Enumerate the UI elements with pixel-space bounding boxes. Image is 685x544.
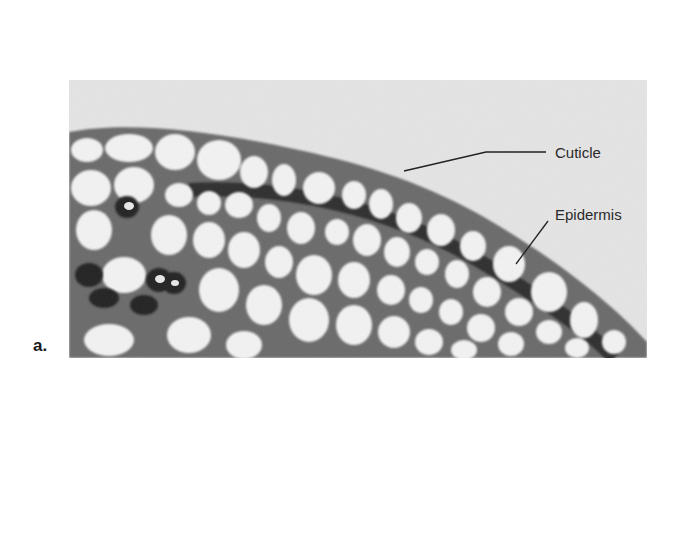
- epidermis-label: Epidermis: [555, 206, 622, 223]
- cuticle-label: Cuticle: [555, 144, 601, 161]
- panel-label: a.: [33, 336, 47, 356]
